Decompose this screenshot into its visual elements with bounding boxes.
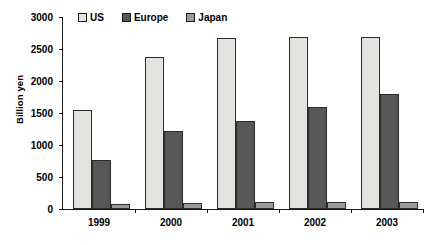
bar-japan-1999[interactable] [111,204,130,209]
x-axis-label-1999: 1999 [88,218,110,228]
x-axis-label-2003: 2003 [376,218,398,228]
y-tick-label: 3000 [31,13,53,23]
y-tick-mark: 2500 [59,49,63,50]
bar-chart: Billion yen USEuropeJapan 05001000150020… [0,0,434,245]
y-tick-label: 1000 [31,141,53,151]
x-tick-mark [135,209,136,213]
x-tick-mark [423,209,424,213]
bar-group-2002 [289,17,351,209]
y-tick-label: 2500 [31,45,53,55]
x-tick-mark [351,209,352,213]
bar-group-2000 [145,17,207,209]
bar-japan-2002[interactable] [327,202,346,209]
y-tick-mark: 1000 [59,145,63,146]
bar-europe-2000[interactable] [164,131,183,209]
bar-us-1999[interactable] [73,110,92,209]
bar-group-2001 [217,17,279,209]
y-tick-mark: 3000 [59,17,63,18]
bar-japan-2000[interactable] [183,203,202,209]
x-axis-label-2002: 2002 [304,218,326,228]
plot-area: 0500100015002000250030001999200020012002… [62,17,423,210]
y-tick-label: 500 [36,173,53,183]
bar-us-2003[interactable] [361,37,380,209]
bar-japan-2003[interactable] [399,202,418,209]
y-tick-mark: 500 [59,177,63,178]
y-tick-mark: 2000 [59,81,63,82]
bar-japan-2001[interactable] [255,202,274,209]
y-tick-label: 2000 [31,77,53,87]
bar-us-2001[interactable] [217,38,236,209]
bar-europe-2002[interactable] [308,107,327,209]
bar-group-2003 [361,17,423,209]
y-tick-mark: 0 [59,209,63,210]
x-axis-label-2001: 2001 [232,218,254,228]
x-axis-label-2000: 2000 [160,218,182,228]
bar-europe-2003[interactable] [380,94,399,209]
bar-us-2002[interactable] [289,37,308,209]
bar-europe-2001[interactable] [236,121,255,209]
y-tick-mark: 1500 [59,113,63,114]
x-tick-mark [207,209,208,213]
y-tick-label: 0 [47,205,53,215]
y-axis-title: Billion yen [14,60,25,140]
y-tick-label: 1500 [31,109,53,119]
bar-us-2000[interactable] [145,57,164,209]
bar-europe-1999[interactable] [92,160,111,209]
x-tick-mark [279,209,280,213]
bar-group-1999 [73,17,135,209]
